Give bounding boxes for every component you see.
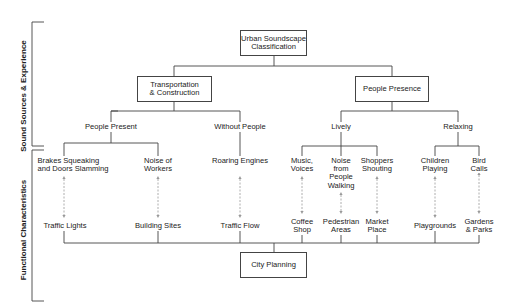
- function-pedestrian: Pedestrian Areas: [322, 218, 360, 234]
- arrow-down-icon: [238, 215, 241, 218]
- root-box: Urban Soundscape Classification: [240, 30, 307, 56]
- source-shoppers: Shoppers Shouting: [360, 157, 395, 173]
- side-label-sound-sources: Sound Sources & Experience: [19, 40, 28, 152]
- transport-box: Transportation & Construction: [137, 76, 212, 102]
- arrow-up-icon: [156, 176, 159, 179]
- source-children: Children Playing: [420, 157, 450, 173]
- arrow-down-icon: [156, 215, 159, 218]
- source-walking: Noise from People Walking: [327, 157, 356, 190]
- arrow-up-icon: [238, 176, 241, 179]
- arrow-up-icon: [62, 176, 65, 179]
- function-traffic-flow: Traffic Flow: [220, 222, 261, 230]
- source-workers: Noise of Workers: [143, 157, 173, 173]
- source-engines: Roaring Engines: [211, 157, 269, 165]
- arrow-down-icon: [477, 211, 480, 214]
- function-traffic-lights: Traffic Lights: [42, 222, 87, 230]
- node-relaxing: Relaxing: [442, 123, 474, 131]
- source-birds: Bird Calls: [462, 157, 496, 173]
- function-coffee-shop: Coffee Shop: [290, 218, 314, 234]
- arrow-up-icon: [433, 176, 436, 179]
- node-lively: Lively: [330, 123, 351, 131]
- arrow-up-icon: [300, 176, 303, 179]
- arrow-down-icon: [300, 211, 303, 214]
- city-planning-box: City Planning: [240, 252, 307, 278]
- source-brakes: Brakes Squeaking and Doors Slamming: [37, 157, 110, 173]
- function-playgrounds: Playgrounds: [413, 222, 457, 230]
- arrow-down-icon: [339, 211, 342, 214]
- function-market: Market Place: [364, 218, 389, 234]
- arrow-down-icon: [62, 215, 65, 218]
- arrow-down-icon: [433, 215, 436, 218]
- node-people-present: People Present: [84, 123, 138, 131]
- arrow-down-icon: [375, 211, 378, 214]
- source-music: Music, Voices: [290, 157, 314, 173]
- arrow-up-icon: [339, 192, 342, 195]
- function-gardens: Gardens & Parks: [463, 218, 494, 234]
- function-building-sites: Building Sites: [134, 222, 182, 230]
- side-label-functional: Functional Characteristics: [19, 180, 28, 280]
- node-without-people: Without People: [213, 123, 267, 131]
- arrow-up-icon: [375, 176, 378, 179]
- people-presence-box: People Presence: [355, 76, 429, 102]
